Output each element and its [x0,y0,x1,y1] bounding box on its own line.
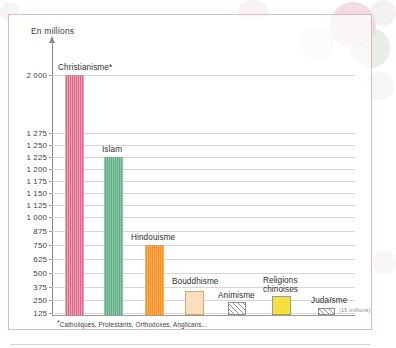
bar-religions-chinoises[interactable] [272,296,291,315]
bar-label-bouddhisme: Bouddhisme [172,277,219,287]
bar-bouddhisme[interactable] [185,291,204,315]
y-tick-375 [49,287,52,288]
gridline-1175 [52,181,355,182]
bar-animisme[interactable] [228,302,246,315]
y-tick-1275 [49,133,52,134]
y-tick-500 [49,273,52,274]
gridline-1200 [52,169,355,170]
y-tick-625 [49,259,52,260]
bar-label-hindouisme: Hindouisme [131,233,175,243]
y-axis-label-1250: 1 250 [3,141,47,150]
bar-label-islam: Islam [102,145,122,155]
bar-label-religions-chinoises-line2: chinoises [263,285,298,295]
y-tick-1000 [49,217,52,218]
x-axis-baseline [52,315,355,316]
y-tick-125 [49,313,52,314]
y-tick-250 [49,300,52,301]
gridline-1150 [52,193,355,194]
y-axis-label-875: 875 [3,227,47,236]
y-axis-label-1150: 1 150 [3,189,47,198]
bar-label-judaisme: Judaïsme [311,296,347,306]
y-axis-label-1200: 1 200 [3,165,47,174]
bar-label-christianisme: Christianisme* [58,63,112,73]
gridline-625 [52,259,355,260]
y-tick-1125 [49,205,52,206]
y-axis-title: En millions [31,26,74,36]
y-axis-label-2000: 2 000 [3,71,47,80]
gridline-375 [52,287,355,288]
y-tick-1250 [49,145,52,146]
gridline-1275 [52,133,355,134]
y-axis-label-1275: 1 275 [3,129,47,138]
y-tick-1150 [49,193,52,194]
y-tick-2000 [49,75,52,76]
bar-judaisme[interactable] [318,308,335,315]
y-tick-1175 [49,181,52,182]
y-axis-label-1000: 1 000 [3,213,47,222]
gridline-500 [52,273,355,274]
y-axis-label-625: 625 [3,255,47,264]
gridline-750 [52,245,355,246]
y-axis-label-1175: 1 175 [3,177,47,186]
y-axis-label-1125: 1 125 [3,201,47,210]
y-axis-label-250: 250 [3,296,47,305]
y-axis-label-125: 125 [3,309,47,318]
y-axis-label-500: 500 [3,269,47,278]
bar-christianisme[interactable] [65,75,84,315]
chart-footnote: *Catholiques, Protestants, Orthodoxes, A… [57,319,207,328]
bar-hindouisme[interactable] [145,245,164,315]
gridline-1000 [52,217,355,218]
y-tick-750 [49,245,52,246]
y-tick-1200 [49,169,52,170]
y-tick-875 [49,231,52,232]
bar-label-animisme: Animisme [218,291,255,301]
gridline-1125 [52,205,355,206]
gridline-875 [52,231,355,232]
y-axis-label-375: 375 [3,283,47,292]
bar-islam[interactable] [104,157,123,315]
gridline-1250 [52,145,355,146]
y-axis-label-750: 750 [3,241,47,250]
bar-note-judaisme: (15 millions) [339,307,370,313]
y-axis-line [52,42,53,316]
gridline-2000 [52,75,355,76]
footnote-text: Catholiques, Protestants, Orthodoxes, An… [60,321,207,328]
y-tick-1225 [49,157,52,158]
gridline-1225 [52,157,355,158]
y-axis-label-1225: 1 225 [3,153,47,162]
